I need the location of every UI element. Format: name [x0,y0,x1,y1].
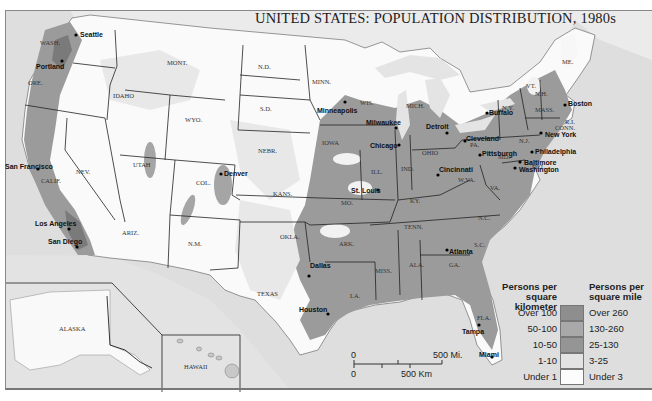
state-label-sc: S.C. [474,241,485,248]
legend-mi-range: 130-260 [589,323,624,334]
state-label-wva: W.VA. [458,176,475,183]
city-label: Boston [568,100,592,107]
city-label: Philadelphia [535,148,576,155]
city-label: Portland [36,63,64,70]
legend-row: 10-5025-130 [492,337,652,353]
city-label: Minneapolis [317,107,357,114]
state-label-kans: KANS. [273,190,292,197]
city-label: Seattle [80,31,103,38]
city-label: Dallas [310,262,331,269]
state-label-sd: S.D. [260,105,272,112]
legend-km-range: 50-100 [527,323,557,334]
state-label-vt: VT. [526,82,536,89]
state-label-ga: GA. [449,261,460,268]
city-label: Tampa [462,328,484,335]
state-label-tenn: TENN. [404,223,423,230]
state-label-miss: MISS. [375,267,392,274]
state-label-ky: KY. [410,197,420,204]
legend-row: 50-100130-260 [492,321,652,337]
state-label-hawaii: HAWAII [184,363,207,370]
state-label-nh: N.H. [535,90,548,97]
city-label: Los Angeles [35,220,76,227]
legend-swatch [560,305,584,321]
legend-km-range: 10-50 [533,339,557,350]
legend-mi-range: Over 260 [589,307,628,318]
legend-swatch [560,337,584,353]
state-label-conn: CONN. [555,124,575,131]
state-label-mich: MICH. [406,102,425,109]
city-label: Detroit [426,123,449,130]
city-label: Pittsburgh [482,150,517,157]
state-label-mass: MASS. [535,106,554,113]
scale-km-zero: 0 [351,369,356,379]
scale-km-label: 500 Km [401,369,432,379]
city-label: Milwaukee [366,119,401,126]
city-label: Washington [519,166,559,173]
state-label-col: COL. [196,179,211,186]
state-label-ill: ILL. [371,168,383,175]
state-label-pa: PA. [470,141,479,148]
state-label-nev: NEV. [76,168,90,175]
state-label-nebr: NEBR. [258,147,277,154]
state-label-wyo: WYO. [185,116,202,123]
state-label-iowa: IOWA [322,139,339,146]
city-label: Cleveland [466,135,499,142]
city-label: Cincinnati [439,166,473,173]
legend-row: Under 1Under 3 [492,369,652,385]
legend-swatch [560,353,584,369]
state-label-ind: IND. [401,165,414,172]
city-label: Houston [299,306,327,313]
scale-miles-label: 500 Mi. [433,350,463,360]
city-label: New York [545,131,576,138]
legend: Persons per square kilometer Persons per… [492,282,652,390]
legend-swatch [560,321,584,337]
state-label-okla: OKLA. [280,233,300,240]
state-label-mo: MO. [341,199,353,206]
city-label: St. Louis [351,187,381,194]
city-label: San Francisco [5,163,53,170]
legend-row: 1-103-25 [492,353,652,369]
state-label-ore: ORE. [28,79,43,86]
city-label: Baltimore [524,159,556,166]
state-label-wis: WIS. [360,99,374,106]
state-label-ariz: ARIZ. [122,229,139,236]
state-label-va: VA. [490,184,500,191]
legend-header-mi: Persons per square mile [589,282,644,302]
state-label-me: ME. [562,58,573,65]
state-label-la: LA. [350,292,360,299]
state-label-nm: N.M. [188,240,202,247]
state-label-calif: CALIF. [41,177,61,184]
scale-miles-zero: 0 [351,350,356,360]
scale-bar: 0 500 Mi. 0 500 Km [353,350,473,385]
legend-mi-range: 25-130 [589,339,619,350]
legend-km-range: Under 1 [523,371,557,382]
state-label-alaska: ALASKA [59,325,85,332]
state-label-fla: FLA. [477,314,491,321]
city-label: San Diego [48,238,82,245]
city-label: Buffalo [489,109,513,116]
state-label-nd: N.D. [258,63,271,70]
state-label-texas: TEXAS [257,290,278,297]
state-label-minn: MINN. [312,78,331,85]
state-label-nc: N.C. [478,214,490,221]
legend-mi-range: 3-25 [589,355,608,366]
legend-km-range: Over 100 [518,307,557,318]
legend-mi-range: Under 3 [589,371,623,382]
city-label: Atlanta [449,248,473,255]
state-label-wash: WASH. [40,39,60,46]
legend-row: Over 100Over 260 [492,305,652,321]
state-label-mont: MONT. [167,59,187,66]
state-label-utah: UTAH [133,161,151,168]
state-label-idaho: IDAHO [113,92,134,99]
city-label: Denver [224,170,248,177]
state-label-nj: N.J. [519,137,529,144]
legend-km-range: 1-10 [538,355,557,366]
state-label-ala: ALA. [409,261,424,268]
state-label-ark: ARK. [339,240,354,247]
map-title: UNITED STATES: POPULATION DISTRIBUTION, … [255,10,616,27]
legend-swatch [560,369,584,385]
state-label-ohio: OHIO [422,149,438,156]
city-label: Chicago [370,142,398,149]
